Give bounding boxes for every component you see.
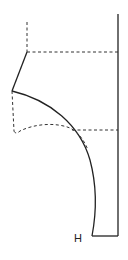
main-curve: [12, 91, 96, 236]
upper-slant-line: [12, 52, 27, 91]
lower-dashed-curve: [14, 124, 88, 150]
point-label-h: H: [74, 233, 82, 244]
left-vertical-dashed-line: [12, 91, 14, 131]
diagram-svg: [0, 0, 128, 260]
pattern-diagram: H: [0, 0, 128, 260]
